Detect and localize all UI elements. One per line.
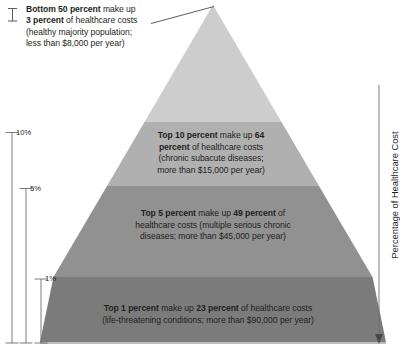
axis-tick-10 xyxy=(6,133,19,344)
band-top5-pop: Top 5 percent xyxy=(141,208,196,218)
band-top10-line-2: percent of healthcare costs xyxy=(118,142,304,154)
axis-tick-label-10: 10% xyxy=(16,128,31,137)
ibeam-marker-icon xyxy=(8,9,17,22)
band-top1-pop: Top 1 percent xyxy=(104,303,159,313)
band-top10-line-1: Top 10 percent make up 64 xyxy=(118,130,304,142)
band-top10-value: 64 xyxy=(255,130,264,140)
band-top10-value-unit: percent xyxy=(159,142,190,152)
callout-line1-rest: make up xyxy=(101,4,136,14)
band-label-top1: Top 1 percent make up 23 percent of heal… xyxy=(62,303,354,326)
axis-tick-label-1: 1% xyxy=(45,274,56,283)
band-top1-line-1: Top 1 percent make up 23 percent of heal… xyxy=(62,303,354,315)
callout-line-4: less than $8,000 per year) xyxy=(26,38,186,49)
callout-line-2: 3 percent of healthcare costs xyxy=(26,15,186,26)
band-top5-line-2: healthcare costs (multiple serious chron… xyxy=(100,220,326,232)
axis-tick-5 xyxy=(20,189,33,344)
callout-line2-bold: 3 percent xyxy=(26,15,64,25)
band-top1-makeup: make up xyxy=(159,303,196,313)
band-top10-pop: Top 10 percent xyxy=(158,130,218,140)
band-top10-line-4: more than $15,000 per year) xyxy=(118,165,304,177)
band-top5-of: of xyxy=(276,208,285,218)
band-top5-line-3: diseases; more than $45,000 per year) xyxy=(100,231,326,243)
band-top5-makeup: make up xyxy=(196,208,233,218)
band-top1-value: 23 percent xyxy=(196,303,239,313)
callout-bottom50: Bottom 50 percent make up 3 percent of h… xyxy=(26,4,186,50)
band-top5-line-1: Top 5 percent make up 49 percent of xyxy=(100,208,326,220)
band-top10-line-3: (chronic subacute diseases; xyxy=(118,153,304,165)
band-label-top10: Top 10 percent make up 64 percent of hea… xyxy=(118,130,304,176)
axis-title-percentage-of-healthcare-cost: Percentage of Healthcare Cost xyxy=(390,120,400,270)
axis-tick-label-5: 5% xyxy=(30,184,41,193)
band-top5-value: 49 percent xyxy=(233,208,276,218)
band-top1-costs: of healthcare costs xyxy=(239,303,313,313)
callout-line-3: (healthy majority population; xyxy=(26,27,186,38)
callout-line1-bold: Bottom 50 percent xyxy=(26,4,101,14)
band-top10-makeup: make up xyxy=(218,130,255,140)
callout-line2-rest: of healthcare costs xyxy=(64,15,138,25)
callout-line-1: Bottom 50 percent make up xyxy=(26,4,186,15)
band-top1-line-2: (life-threatening conditions; more than … xyxy=(62,315,354,327)
band-top10-costs: of healthcare costs xyxy=(190,142,264,152)
band-label-top5: Top 5 percent make up 49 percent of heal… xyxy=(100,208,326,243)
